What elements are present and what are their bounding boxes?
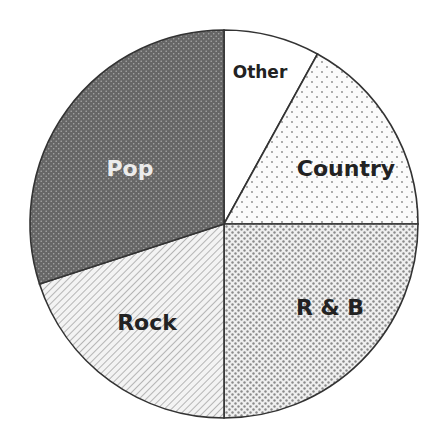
slice-label-pop: Pop [107, 156, 154, 181]
slice-label-rnb: R & B [296, 295, 364, 320]
slice-label-country: Country [297, 156, 395, 181]
pie-slices [30, 30, 418, 418]
pie-slice-r-b [224, 224, 418, 418]
slice-label-other: Other [233, 62, 288, 82]
pie-chart: Other Country R & B Rock Pop [0, 0, 440, 447]
slice-label-rock: Rock [117, 310, 178, 335]
